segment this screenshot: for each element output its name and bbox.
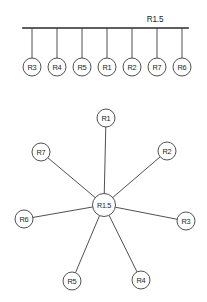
node-label: R1 — [102, 63, 111, 72]
node-label: R4 — [136, 276, 145, 285]
network-topology-diagram: R1.5 R3R4R5R1R2R7R6 R1.5 R1R2R3R4R5R6R7 — [0, 0, 207, 302]
bus-node-r3[interactable]: R3 — [23, 58, 41, 76]
node-label: R3 — [181, 217, 190, 226]
bus-node-r7[interactable]: R7 — [148, 58, 166, 76]
star-topology-panel: R1.5 R1R2R3R4R5R6R7 — [15, 109, 195, 290]
star-node-r4[interactable]: R4 — [132, 271, 150, 289]
node-label: R2 — [162, 147, 171, 156]
bus-node-r6[interactable]: R6 — [173, 58, 191, 76]
star-edge-hub-to-r2 — [113, 157, 160, 198]
node-label: R1 — [101, 114, 110, 123]
node-label: R4 — [52, 63, 61, 72]
star-node-r3[interactable]: R3 — [177, 212, 195, 230]
star-edge-hub-to-r7 — [48, 158, 95, 198]
bus-stem-group — [32, 28, 182, 58]
topology-canvas: R1.5 R3R4R5R1R2R7R6 R1.5 R1R2R3R4R5R6R7 — [0, 0, 207, 302]
node-label: R7 — [36, 148, 45, 157]
star-node-r6[interactable]: R6 — [15, 210, 33, 228]
star-node-r1[interactable]: R1 — [97, 109, 115, 127]
node-label: R6 — [19, 215, 28, 224]
star-edge-hub-to-r4 — [109, 215, 137, 272]
bus-node-r1[interactable]: R1 — [98, 58, 116, 76]
node-label: R2 — [127, 63, 136, 72]
node-label: R7 — [152, 63, 161, 72]
star-node-r7[interactable]: R7 — [32, 143, 50, 161]
star-hub-node[interactable]: R1.5 — [93, 194, 116, 217]
node-label: R5 — [67, 277, 76, 286]
bus-node-group: R3R4R5R1R2R7R6 — [23, 58, 191, 76]
star-node-r2[interactable]: R2 — [158, 142, 176, 160]
node-label: R3 — [27, 63, 36, 72]
star-edge-hub-to-r1 — [104, 127, 106, 194]
node-label: R6 — [177, 63, 186, 72]
star-hub-label: R1.5 — [97, 201, 111, 210]
star-edge-hub-to-r3 — [115, 207, 177, 219]
star-edge-hub-to-r5 — [75, 216, 99, 273]
bus-node-r2[interactable]: R2 — [123, 58, 141, 76]
bus-node-r4[interactable]: R4 — [48, 58, 66, 76]
star-edge-hub-to-r6 — [33, 207, 93, 217]
bus-node-r5[interactable]: R5 — [73, 58, 91, 76]
node-label: R5 — [77, 63, 86, 72]
bus-topology-panel: R1.5 R3R4R5R1R2R7R6 — [23, 15, 191, 77]
bus-backbone-label: R1.5 — [147, 15, 164, 24]
star-node-r5[interactable]: R5 — [63, 272, 81, 290]
